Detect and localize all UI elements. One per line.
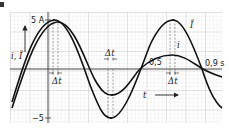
chart: 5 A −5 i, Ĩ Δt Δt Δt 0,5 0,9 s t Ĩ i bbox=[0, 0, 229, 131]
x-tick-label-1: 0,5 bbox=[149, 58, 162, 67]
time-label: t bbox=[143, 90, 147, 100]
y-top-label: 5 A bbox=[31, 16, 45, 25]
curve-big-label: Ĩ bbox=[189, 19, 194, 30]
curve-small-label: i bbox=[177, 40, 180, 50]
page-fragment-mark bbox=[0, 2, 4, 7]
peak-dot bbox=[172, 19, 174, 21]
x-tick-label-2: 0,9 s bbox=[205, 59, 224, 68]
y-bottom-label: −5 bbox=[32, 114, 44, 123]
trough-dot bbox=[111, 94, 113, 96]
delta-t-label-2: Δt bbox=[104, 48, 115, 58]
y-axis-label: i, Ĩ bbox=[11, 50, 23, 61]
peak-dot bbox=[53, 19, 55, 21]
delta-t-label-1: Δt bbox=[51, 76, 62, 86]
trough-dot bbox=[110, 117, 112, 119]
delta-t-label-3: Δt bbox=[167, 76, 178, 86]
